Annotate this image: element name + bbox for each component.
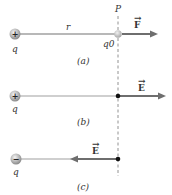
source-charge-label: q xyxy=(13,167,19,177)
vector-arrow-accent: → xyxy=(134,13,142,23)
panel-caption: (c) xyxy=(77,182,90,192)
test-charge-label: q0 xyxy=(103,39,115,49)
panel-c: E → − q (c) xyxy=(11,139,121,192)
field-arrowhead-icon xyxy=(158,93,166,100)
panel-caption: (a) xyxy=(77,56,90,66)
distance-label: r xyxy=(66,22,71,32)
field-point-dot xyxy=(116,157,121,162)
charge-sign: + xyxy=(12,92,19,101)
force-arrowhead-icon xyxy=(150,31,158,38)
vector-arrow-accent: → xyxy=(92,139,100,149)
panel-caption: (b) xyxy=(77,117,90,127)
field-point-dot xyxy=(116,94,121,99)
source-charge-label: q xyxy=(12,44,18,54)
charge-sign: − xyxy=(13,155,20,164)
test-charge-icon xyxy=(114,30,122,38)
charge-sign: + xyxy=(12,30,19,39)
point-p-label: P xyxy=(114,4,122,14)
panel-a: r F → + q q0 (a) xyxy=(10,13,159,66)
electric-field-diagram: P r F → + q q0 (a) E → + q (b) E → − q xyxy=(0,0,172,195)
vector-arrow-accent: → xyxy=(138,76,146,86)
source-charge-label: q xyxy=(12,104,18,114)
field-arrowhead-icon xyxy=(70,156,78,163)
panel-b: E → + q (b) xyxy=(10,76,167,127)
